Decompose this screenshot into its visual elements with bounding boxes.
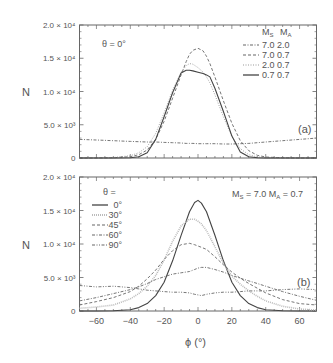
legend-label: 2.0 0.7 <box>262 60 290 70</box>
y-tick-label: 1.5 × 10⁴ <box>43 207 76 216</box>
x-tick-label: 60 <box>295 316 305 326</box>
y-tick-label: 0 <box>71 154 76 163</box>
x-tick-label: −40 <box>123 316 138 326</box>
panel-b-legend-title: θ = <box>103 187 116 197</box>
legend-label: 90° <box>108 240 122 250</box>
panel-a-label: (a) <box>298 123 311 135</box>
curve-45- <box>80 243 317 305</box>
panel-a-annotation: θ = 0° <box>102 39 126 49</box>
y-axis-label-a: N <box>22 86 30 98</box>
legend-label: 45° <box>108 220 122 230</box>
y-tick-label: 1.0 × 10⁴ <box>43 88 76 97</box>
panel-b-annotation: MS = 7.0 MA = 0.7 <box>232 189 303 200</box>
y-axis-label-b: N <box>22 239 30 251</box>
x-tick-label: 0 <box>195 316 200 326</box>
legend-header-ma: MA <box>280 27 292 38</box>
x-tick-label: −20 <box>157 316 172 326</box>
y-tick-label: 1.0 × 10⁴ <box>43 240 76 249</box>
panel-a-legend: MS MA 7.0 2.07.0 0.72.0 0.70.7 0.7 <box>243 27 292 80</box>
curve-90- <box>80 286 317 296</box>
legend-label: 0.7 0.7 <box>262 70 290 80</box>
y-tick-label: 0 <box>71 307 76 316</box>
curve-0-7-0-7 <box>80 70 317 158</box>
x-tick-label: 40 <box>261 316 271 326</box>
legend-label: 7.0 2.0 <box>262 40 290 50</box>
panel-b-label: (b) <box>297 276 310 288</box>
y-tick-label: 5.0 × 10³ <box>44 121 76 130</box>
legend-header-ms: MS <box>262 27 274 38</box>
legend-label: 60° <box>108 230 122 240</box>
y-tick-label: 2.0 × 10⁴ <box>43 21 76 30</box>
panel-b: 05.0 × 10³1.0 × 10⁴1.5 × 10⁴2.0 × 10⁴−60… <box>22 173 317 348</box>
y-tick-label: 5.0 × 10³ <box>44 274 76 283</box>
curve-7-0-2-0 <box>80 138 317 144</box>
legend-label: 30° <box>108 210 122 220</box>
x-tick-label: −60 <box>89 316 104 326</box>
figure: 05.0 × 10³1.0 × 10⁴1.5 × 10⁴2.0 × 10⁴ θ … <box>0 0 333 363</box>
y-tick-label: 2.0 × 10⁴ <box>43 173 76 182</box>
legend-label: 7.0 0.7 <box>262 50 290 60</box>
curve-60- <box>80 267 317 301</box>
y-tick-label: 1.5 × 10⁴ <box>43 54 76 63</box>
x-tick-label: 20 <box>227 316 237 326</box>
x-axis-label: ϕ (°) <box>185 336 206 348</box>
panel-a: 05.0 × 10³1.0 × 10⁴1.5 × 10⁴2.0 × 10⁴ θ … <box>22 21 317 163</box>
panel-b-legend: 0°30°45°60°90° <box>92 200 122 250</box>
legend-label: 0° <box>113 200 122 210</box>
